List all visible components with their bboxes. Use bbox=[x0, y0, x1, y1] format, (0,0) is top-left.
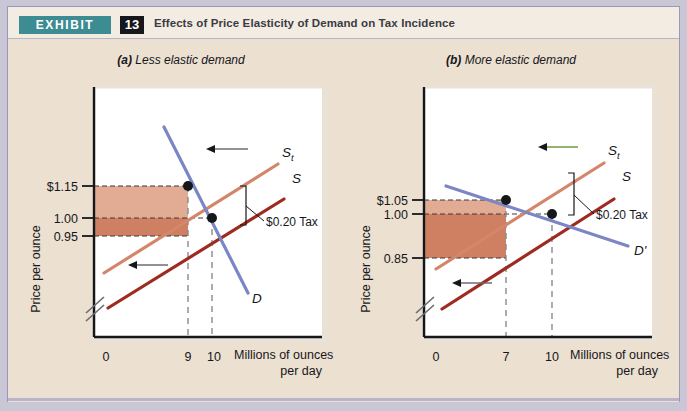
x-axis-title-line1: Millions of ounces bbox=[234, 348, 333, 362]
exhibit-badge: EXHIBIT bbox=[19, 16, 111, 34]
panel-a-subtitle-text: Less elastic demand bbox=[135, 53, 244, 67]
supply-label: S bbox=[622, 169, 631, 184]
x-tick-label-2: 10 bbox=[207, 350, 221, 364]
y-tick-label-3: 0.95 bbox=[54, 230, 78, 244]
plot-area: (a) Less elastic demand bbox=[8, 39, 679, 402]
panel-b-subtitle: (b) More elastic demand bbox=[346, 53, 676, 67]
exhibit-title: Effects of Price Elasticity of Demand on… bbox=[154, 17, 455, 29]
x-axis-title-line2: per day bbox=[280, 364, 322, 378]
panel-a-chart: $0.20 Tax S t S D bbox=[16, 69, 346, 402]
consumer-burden-region bbox=[94, 186, 188, 218]
y-tick-label-1: $1.15 bbox=[47, 180, 78, 194]
supply-taxed-label: S bbox=[282, 145, 291, 160]
producer-burden-region bbox=[94, 218, 188, 236]
demand-label: D bbox=[252, 291, 262, 306]
panel-more-elastic-demand: (b) More elastic demand bbox=[346, 39, 676, 402]
y-axis-title: Price per ounce bbox=[359, 225, 373, 313]
y-tick-label-2: 1.00 bbox=[54, 212, 78, 226]
equilibrium-point-post-tax bbox=[501, 195, 511, 205]
x-tick-label-1: 9 bbox=[185, 350, 192, 364]
tax-annotation-label: $0.20 Tax bbox=[266, 215, 318, 229]
panel-a-subtitle: (a) Less elastic demand bbox=[16, 53, 346, 67]
panel-less-elastic-demand: (a) Less elastic demand bbox=[16, 39, 346, 402]
x-tick-label-2: 10 bbox=[545, 350, 559, 364]
panel-b-letter: (b) bbox=[446, 53, 461, 67]
x-axis-title-line2: per day bbox=[616, 364, 658, 378]
panel-b-subtitle-text: More elastic demand bbox=[465, 53, 576, 67]
supply-taxed-subscript: t bbox=[617, 150, 620, 161]
panel-b-chart: $0.20 Tax S t S D' bbox=[346, 69, 676, 402]
exhibit-number-badge: 13 bbox=[120, 16, 144, 34]
footer-divider bbox=[8, 398, 679, 401]
supply-taxed-subscript: t bbox=[291, 152, 294, 163]
y-tick-label-3: 0.85 bbox=[384, 252, 408, 266]
y-axis-title: Price per ounce bbox=[29, 225, 43, 313]
panel-a-letter: (a) bbox=[117, 53, 132, 67]
origin-label: 0 bbox=[103, 350, 110, 364]
exhibit-frame: EXHIBIT 13 Effects of Price Elasticity o… bbox=[7, 6, 680, 402]
x-tick-label-1: 7 bbox=[503, 350, 510, 364]
equilibrium-point-pre-tax bbox=[547, 209, 557, 219]
y-tick-label-2: 1.00 bbox=[384, 208, 408, 222]
supply-taxed-label: S bbox=[608, 143, 617, 158]
equilibrium-point-post-tax bbox=[183, 181, 193, 191]
x-axis-title-line1: Millions of ounces bbox=[570, 348, 669, 362]
y-tick-label-1: $1.05 bbox=[377, 194, 408, 208]
demand-label: D' bbox=[634, 243, 647, 258]
equilibrium-point-pre-tax bbox=[207, 213, 217, 223]
tax-annotation-label: $0.20 Tax bbox=[596, 208, 648, 222]
exhibit-header: EXHIBIT 13 Effects of Price Elasticity o… bbox=[8, 7, 679, 39]
origin-label: 0 bbox=[433, 350, 440, 364]
supply-label: S bbox=[292, 171, 301, 186]
